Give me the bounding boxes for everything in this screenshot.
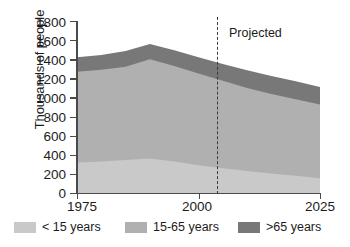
y-tick-label: 400 bbox=[18, 149, 66, 163]
legend-label: >65 years bbox=[266, 220, 321, 234]
legend-swatch-icon bbox=[14, 222, 36, 233]
legend-item-under-15: < 15 years bbox=[14, 220, 101, 234]
y-tick-label: 0 bbox=[18, 187, 66, 201]
stacked-area-plot bbox=[77, 21, 320, 193]
legend-swatch-icon bbox=[125, 222, 147, 233]
legend-label: < 15 years bbox=[42, 220, 101, 234]
y-tick-label: 1200 bbox=[18, 73, 66, 87]
projected-label: Projected bbox=[229, 26, 282, 40]
legend-item-15-65: 15-65 years bbox=[125, 220, 219, 234]
legend-swatch-icon bbox=[238, 222, 260, 233]
x-tick-label: 2025 bbox=[305, 200, 335, 214]
y-axis-line bbox=[76, 21, 78, 194]
legend-label: 15-65 years bbox=[153, 220, 219, 234]
x-tick-label: 1975 bbox=[67, 200, 97, 214]
y-tick-label: 1000 bbox=[18, 92, 66, 106]
projected-divider-line bbox=[217, 17, 218, 194]
x-tick-label: 2000 bbox=[182, 200, 212, 214]
y-tick-label: 800 bbox=[18, 111, 66, 125]
chart-legend: < 15 years 15-65 years >65 years bbox=[0, 220, 350, 242]
legend-item-over-65: >65 years bbox=[238, 220, 321, 234]
y-tick-label: 200 bbox=[18, 168, 66, 182]
y-tick-label: 1800 bbox=[18, 16, 66, 30]
y-tick-label: 1400 bbox=[18, 54, 66, 68]
y-tick-label: 1600 bbox=[18, 35, 66, 49]
plot-area bbox=[77, 21, 320, 193]
y-tick-label: 600 bbox=[18, 130, 66, 144]
chart-root: Thousands of people 1800 1600 1400 1200 … bbox=[0, 0, 350, 247]
